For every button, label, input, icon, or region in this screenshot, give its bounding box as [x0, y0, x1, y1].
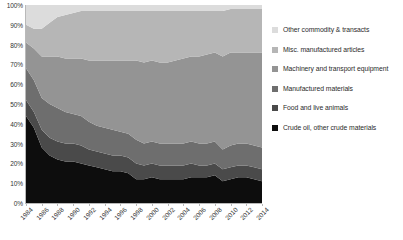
legend-swatch-icon — [272, 125, 278, 131]
legend-item[interactable]: Machinery and transport equipment — [272, 65, 403, 74]
y-axis: 0%10%20%30%40%50%60%70%80%90%100% — [0, 0, 26, 208]
legend-item-label: Misc. manufactured articles — [283, 46, 364, 55]
y-axis-tick-label: 10% — [10, 180, 23, 187]
y-axis-tick-label: 50% — [10, 101, 23, 108]
legend-item[interactable]: Crude oil, other crude materials — [272, 124, 403, 133]
x-axis-tick-label: 1994 — [97, 206, 112, 221]
y-axis-tick-label: 40% — [10, 120, 23, 127]
x-axis-tick-label: 2000 — [145, 206, 160, 221]
y-axis-tick-label: 30% — [10, 140, 23, 147]
x-axis-tick-label: 2006 — [192, 206, 207, 221]
stacked-area-chart: 0%10%20%30%40%50%60%70%80%90%100% 198419… — [0, 0, 403, 240]
legend-item[interactable]: Other commodity & transacts — [272, 26, 403, 35]
legend-item[interactable]: Misc. manufactured articles — [272, 46, 403, 55]
x-axis-tick-mark — [57, 204, 58, 206]
x-axis-tick-mark — [199, 204, 200, 206]
legend-item[interactable]: Manufactured materials — [272, 85, 403, 94]
legend-item-label: Machinery and transport equipment — [283, 65, 388, 74]
legend-item[interactable]: Food and live animals — [272, 104, 403, 113]
legend-swatch-icon — [272, 47, 278, 53]
legend-item-label: Other commodity & transacts — [283, 26, 369, 35]
x-axis-tick-mark — [73, 204, 74, 206]
x-axis-tick-mark — [168, 204, 169, 206]
x-axis-tick-label: 2014 — [255, 206, 270, 221]
x-axis-tick-label: 1996 — [113, 206, 128, 221]
plot-area — [26, 5, 262, 203]
chart-legend: Other commodity & transactsMisc. manufac… — [272, 26, 403, 143]
x-axis-tick-mark — [105, 204, 106, 206]
area-band — [26, 9, 262, 62]
x-axis-tick-mark — [231, 204, 232, 206]
y-axis-tick-label: 20% — [10, 160, 23, 167]
x-axis-tick-label: 2002 — [160, 206, 175, 221]
x-axis-tick-label: 1998 — [129, 206, 144, 221]
x-axis-tick-mark — [89, 204, 90, 206]
legend-swatch-icon — [272, 66, 278, 72]
legend-item-label: Crude oil, other crude materials — [283, 124, 376, 133]
x-axis-tick-mark — [246, 204, 247, 206]
x-axis-tick-label: 2010 — [223, 206, 238, 221]
stacked-area-svg — [26, 5, 262, 203]
y-axis-tick-label: 60% — [10, 81, 23, 88]
x-axis-tick-mark — [42, 204, 43, 206]
legend-swatch-icon — [272, 105, 278, 111]
x-axis-tick-mark — [136, 204, 137, 206]
x-axis-tick-mark — [215, 204, 216, 206]
x-axis: 1984198619881990199219941996199820002002… — [26, 204, 262, 240]
x-axis-tick-mark — [26, 204, 27, 206]
y-axis-tick-label: 70% — [10, 61, 23, 68]
x-axis-tick-label: 2004 — [176, 206, 191, 221]
x-axis-tick-label: 2008 — [208, 206, 223, 221]
x-axis-tick-label: 1986 — [34, 206, 49, 221]
legend-item-label: Food and live animals — [283, 104, 348, 113]
y-axis-tick-label: 0% — [14, 200, 23, 207]
legend-item-label: Manufactured materials — [283, 85, 353, 94]
legend-swatch-icon — [272, 86, 278, 92]
x-axis-tick-label: 1992 — [82, 206, 97, 221]
x-axis-tick-mark — [262, 204, 263, 206]
x-axis-tick-mark — [183, 204, 184, 206]
x-axis-tick-mark — [120, 204, 121, 206]
y-axis-tick-label: 80% — [10, 41, 23, 48]
y-axis-tick-label: 100% — [7, 2, 23, 9]
x-axis-tick-label: 1990 — [66, 206, 81, 221]
x-axis-tick-label: 2012 — [239, 206, 254, 221]
x-axis-tick-mark — [152, 204, 153, 206]
y-axis-tick-label: 90% — [10, 21, 23, 28]
legend-swatch-icon — [272, 27, 278, 33]
x-axis-tick-label: 1984 — [19, 206, 34, 221]
x-axis-tick-label: 1988 — [50, 206, 65, 221]
